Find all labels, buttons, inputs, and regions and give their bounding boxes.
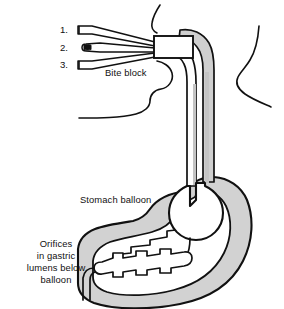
tube-left-shaft <box>175 48 196 186</box>
proximal-lumens-group <box>78 26 155 69</box>
lumen-3-marker: 3. <box>60 59 68 70</box>
bite-block-body <box>154 36 193 58</box>
tube-right-shaft-shading <box>205 72 209 183</box>
tube-left-shaft-shading <box>193 84 196 185</box>
lumen-1-marker: 1. <box>60 24 68 35</box>
orifices-label-line-2: in gastric <box>37 250 76 261</box>
lumen-2-marker: 2. <box>60 42 68 53</box>
stomach-balloon-shape <box>169 183 223 240</box>
lumen-2-bulb-tip <box>84 45 91 50</box>
diagram-canvas: 1. 2. 3. Bite block Stomach balloon Orif… <box>0 0 284 309</box>
bite-block-group <box>154 36 193 58</box>
orifices-label-line-3: lumens below <box>27 262 86 273</box>
orifices-label-line-1: Orifices <box>40 238 73 249</box>
stomach-balloon-label: Stomach balloon <box>80 194 151 205</box>
bite-block-label: Bite block <box>105 67 147 78</box>
nose-profile-curve <box>237 26 271 107</box>
upper-lip-curve <box>152 5 160 33</box>
orifices-label-line-4: balloon <box>41 274 72 285</box>
gastric-balloon-diagram: 1. 2. 3. Bite block Stomach balloon Orif… <box>0 0 284 309</box>
orifices-label: Orifices in gastric lumens below balloon <box>27 238 86 285</box>
